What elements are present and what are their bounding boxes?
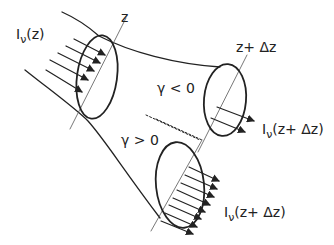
intensity-out-lower-label: Iν(z+ Δz): [224, 205, 286, 223]
z-dz-axis-upper: [198, 55, 247, 152]
z-dz-axis-label: z+ Δz: [236, 40, 276, 54]
cross-section-z-dz-converging: [152, 140, 209, 231]
gamma-positive-label: γ > 0: [121, 133, 159, 147]
outgoing-arrows-lower: [161, 167, 219, 234]
dotted-guide-2: [156, 119, 202, 140]
z-axis-label: z: [121, 10, 128, 24]
cross-section-z-dz-diverging: [201, 62, 249, 137]
intensity-in-label: Iν(z): [16, 27, 45, 45]
tube-upper-boundary: [62, 12, 220, 67]
intensity-out-upper-label: Iν(z+ Δz): [262, 122, 324, 140]
cross-section-z: [71, 33, 122, 122]
outgoing-arrows-upper: [211, 107, 254, 132]
gamma-negative-label: γ < 0: [157, 81, 195, 95]
